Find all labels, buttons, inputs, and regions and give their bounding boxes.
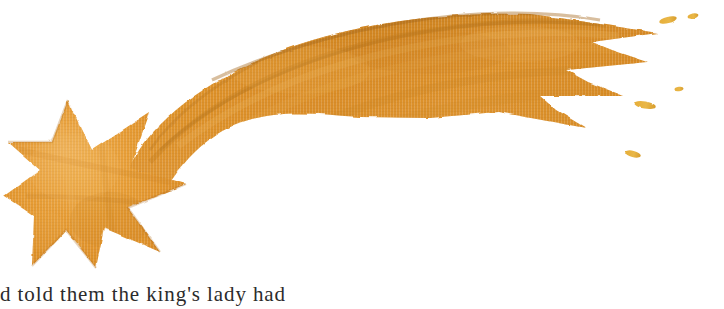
page-canvas: d told them the king's lady had	[0, 0, 724, 309]
droplet-2	[687, 12, 699, 19]
comet-tail-texture	[120, 0, 680, 200]
droplet-1	[658, 15, 677, 26]
shooting-star-illustration	[0, 0, 724, 309]
droplet-5	[674, 86, 684, 92]
droplet-3	[634, 100, 657, 111]
caption-clip-window: d told them the king's lady had	[0, 283, 724, 309]
caption-text: d told them the king's lady had	[0, 283, 680, 306]
shooting-star-svg	[0, 0, 724, 309]
droplet-4	[624, 149, 641, 159]
